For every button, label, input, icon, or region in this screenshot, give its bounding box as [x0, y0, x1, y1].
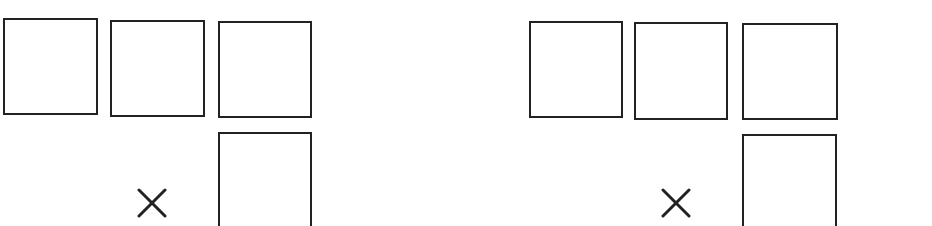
answer-box-top-3[interactable]	[218, 21, 312, 118]
answer-box-top-1[interactable]	[3, 18, 98, 115]
answer-box-top-2[interactable]	[110, 20, 205, 117]
answer-box-multiplier[interactable]	[742, 134, 837, 226]
answer-box-top-3[interactable]	[742, 23, 838, 120]
multiply-icon	[137, 188, 167, 218]
answer-box-top-1[interactable]	[529, 21, 623, 118]
answer-box-multiplier[interactable]	[218, 132, 312, 226]
multiply-icon	[661, 188, 691, 218]
answer-box-top-2[interactable]	[634, 22, 728, 120]
